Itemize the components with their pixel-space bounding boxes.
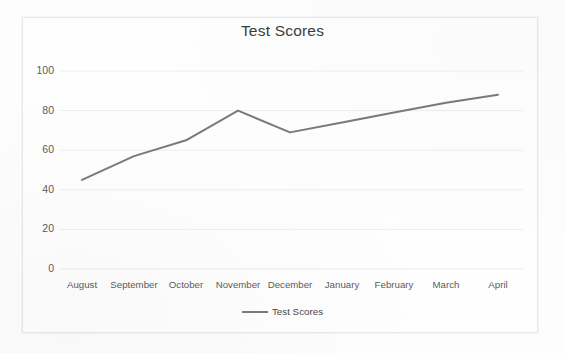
- x-axis-tick-label: December: [268, 279, 313, 290]
- x-axis-tick-label: November: [216, 279, 261, 290]
- x-axis-tick-label: January: [325, 279, 359, 290]
- legend-label-test-scores: Test Scores: [272, 306, 323, 317]
- x-axis-tick-label: February: [375, 279, 414, 290]
- x-axis-tick-label: August: [67, 279, 97, 290]
- y-axis-tick-label: 20: [22, 222, 54, 234]
- x-axis-tick-label: September: [110, 279, 157, 290]
- chart-title: Test Scores: [0, 22, 565, 40]
- y-axis-tick-label: 100: [22, 64, 54, 76]
- y-axis-tick-label: 0: [22, 262, 54, 274]
- x-axis-tick-label: October: [169, 279, 203, 290]
- x-axis-tick-label: April: [488, 279, 507, 290]
- scanned-page: Test Scores 020406080100 AugustSeptember…: [0, 0, 565, 353]
- y-axis-tick-label: 40: [22, 183, 54, 195]
- y-axis-tick-label: 60: [22, 143, 54, 155]
- x-axis-tick-label: March: [433, 279, 460, 290]
- y-axis-tick-label: 80: [22, 104, 54, 116]
- chart-legend: Test Scores: [0, 306, 565, 317]
- legend-line-swatch-icon: [242, 311, 268, 313]
